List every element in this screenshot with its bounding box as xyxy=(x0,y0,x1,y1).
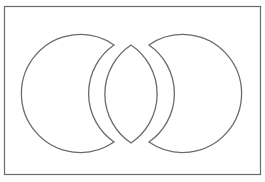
venn-diagram xyxy=(0,0,265,182)
